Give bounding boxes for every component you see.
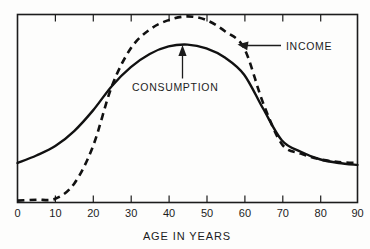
x-tick-label-60: 60 <box>239 207 251 219</box>
x-tick-label-80: 80 <box>315 207 327 219</box>
x-tick-label-0: 0 <box>14 207 20 219</box>
chart-figure: INCOME CONSUMPTION 0 10 20 30 40 50 60 7… <box>0 0 370 249</box>
consumption-annotation-leader <box>178 45 186 79</box>
x-tick-label-50: 50 <box>201 207 213 219</box>
consumption-label: CONSUMPTION <box>132 81 218 93</box>
x-axis-title: AGE IN YEARS <box>143 230 231 242</box>
x-tick-label-20: 20 <box>87 207 99 219</box>
income-label: INCOME <box>286 40 332 52</box>
x-axis-ticks-bottom <box>55 196 320 203</box>
x-tick-label-70: 70 <box>277 207 289 219</box>
x-tick-label-10: 10 <box>49 207 61 219</box>
income-annotation-leader <box>238 42 282 51</box>
x-tick-label-90: 90 <box>351 207 363 219</box>
consumption-series-line <box>18 45 358 165</box>
income-consumption-line-chart: INCOME CONSUMPTION 0 10 20 30 40 50 60 7… <box>0 0 370 249</box>
x-tick-label-30: 30 <box>125 207 137 219</box>
x-tick-label-40: 40 <box>163 207 175 219</box>
